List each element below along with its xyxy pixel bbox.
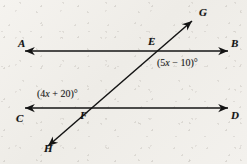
point-label-d: D — [231, 110, 239, 121]
point-label-h: H — [44, 143, 53, 154]
angle-label-at-e: (5x − 10)° — [157, 58, 198, 68]
point-label-e: E — [148, 36, 155, 47]
transversal-gh — [48, 21, 192, 146]
angle-e-suffix: − 10)° — [170, 57, 198, 68]
geometry-figure: A B C D E F G H (5x − 10)° (4x + 20)° — [0, 0, 247, 164]
angle-label-at-f: (4x + 20)° — [37, 89, 78, 99]
point-label-a: A — [18, 38, 25, 49]
point-label-b: B — [231, 38, 238, 49]
diagram-canvas — [0, 0, 247, 164]
angle-f-suffix: + 20)° — [50, 88, 78, 99]
point-label-f: F — [80, 110, 87, 121]
point-label-c: C — [16, 113, 23, 124]
point-label-g: G — [199, 7, 207, 18]
